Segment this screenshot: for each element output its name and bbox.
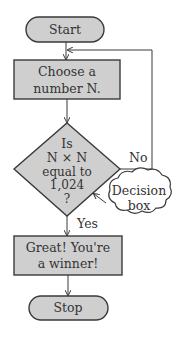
callout-pointer bbox=[94, 194, 106, 203]
flowchart: Start Choose a number N. Is N × N equal … bbox=[0, 0, 186, 340]
decision-line-2: N × N bbox=[47, 150, 87, 165]
start-label: Start bbox=[49, 22, 81, 37]
no-label: No bbox=[129, 150, 147, 165]
choose-line-2: number N. bbox=[33, 81, 100, 96]
decision-line-5: ? bbox=[64, 192, 70, 206]
choose-line-1: Choose a bbox=[38, 64, 96, 79]
yes-label: Yes bbox=[76, 216, 98, 231]
winner-line-1: Great! You're bbox=[26, 240, 110, 255]
callout-line-1: Decision bbox=[112, 183, 166, 198]
decision-line-4: 1,024 bbox=[50, 178, 85, 192]
decision-line-1: Is bbox=[61, 136, 72, 151]
winner-line-2: a winner! bbox=[38, 256, 99, 271]
decision-line-3: equal to bbox=[42, 165, 91, 179]
stop-label: Stop bbox=[53, 300, 82, 315]
callout-line-2: box bbox=[128, 198, 151, 213]
